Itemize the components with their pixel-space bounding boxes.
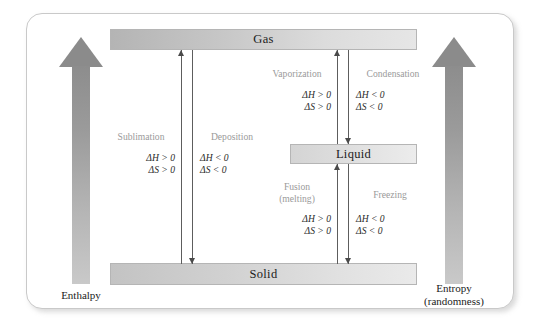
fusion-label: Fusion (melting) — [259, 181, 335, 204]
freezing-delta-h: ΔH < 0 — [356, 213, 426, 225]
condensation-delta-h: ΔH < 0 — [356, 89, 426, 101]
state-label-gas: Gas — [253, 32, 273, 47]
deposition-arrowhead-icon — [189, 258, 195, 264]
fusion-delta-h: ΔH > 0 — [261, 213, 331, 225]
fusion-arrowhead-icon — [334, 164, 340, 170]
state-bar-gas: Gas — [110, 29, 417, 50]
deposition-delta-s: ΔS < 0 — [200, 164, 270, 176]
sublimation-arrow-line — [181, 50, 182, 264]
condensation-arrowhead-icon — [345, 138, 351, 144]
freezing-delta-s: ΔS < 0 — [356, 225, 426, 237]
freezing-label: Freezing — [352, 189, 428, 201]
state-bar-liquid: Liquid — [290, 144, 417, 164]
sublimation-delta-s: ΔS > 0 — [105, 164, 175, 176]
state-label-solid: Solid — [250, 267, 278, 282]
state-label-liquid: Liquid — [336, 147, 371, 162]
sublimation-delta-h: ΔH > 0 — [105, 152, 175, 164]
condensation-label: Condensation — [352, 68, 434, 80]
fusion-delta-s: ΔS > 0 — [261, 225, 331, 237]
state-bar-solid: Solid — [110, 263, 417, 285]
enthalpy-axis-label: Enthalpy — [41, 289, 121, 302]
fusion-arrow-line — [337, 164, 338, 264]
phase-transition-diagram: Enthalpy Entropy (randomness) Gas Liquid… — [0, 0, 544, 330]
vaporization-delta-h: ΔH > 0 — [261, 89, 331, 101]
deposition-label: Deposition — [196, 131, 268, 143]
vaporization-delta-s: ΔS > 0 — [261, 101, 331, 113]
sublimation-label: Sublimation — [105, 131, 177, 143]
up-arrow-icon — [59, 37, 103, 67]
deposition-arrow-line — [192, 50, 193, 264]
vaporization-arrowhead-icon — [334, 50, 340, 56]
freezing-arrow-line — [348, 164, 349, 264]
up-arrow-icon — [432, 37, 476, 67]
vaporization-label: Vaporization — [259, 68, 335, 80]
condensation-delta-s: ΔS < 0 — [356, 101, 426, 113]
sublimation-arrowhead-icon — [178, 50, 184, 56]
freezing-arrowhead-icon — [345, 258, 351, 264]
vaporization-arrow-line — [337, 50, 338, 144]
deposition-delta-h: ΔH < 0 — [200, 152, 270, 164]
enthalpy-axis-arrow — [59, 37, 103, 284]
entropy-axis-label: Entropy (randomness) — [409, 282, 499, 308]
condensation-arrow-line — [348, 50, 349, 144]
entropy-axis-arrow — [432, 37, 476, 284]
